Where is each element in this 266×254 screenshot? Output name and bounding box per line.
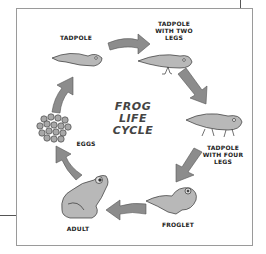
diagram-title: FROG LIFE CYCLE xyxy=(103,101,163,137)
adult-frog-illustration xyxy=(62,176,108,219)
label-line: ADULT xyxy=(62,225,94,232)
label-line: WITH FOUR xyxy=(200,151,246,158)
title-line-3: CYCLE xyxy=(103,125,163,137)
arrow-two-legs-to-four-legs xyxy=(178,68,207,104)
label-tadpole: TADPOLE xyxy=(56,34,96,41)
label-tadpole-four-legs: TADPOLE WITH FOUR LEGS xyxy=(200,144,246,165)
arrow-adult-to-eggs xyxy=(56,146,82,180)
froglet-illustration xyxy=(146,188,196,214)
arrow-eggs-to-tadpole xyxy=(52,77,73,113)
tadpole-four-legs-illustration xyxy=(186,114,242,137)
tadpole-illustration xyxy=(52,53,102,66)
label-adult: ADULT xyxy=(62,225,94,232)
label-line: LEGS xyxy=(152,34,196,41)
arrow-tadpole-to-two-legs xyxy=(108,34,150,54)
label-line: LEGS xyxy=(200,158,246,165)
label-line: TADPOLE xyxy=(200,144,246,151)
arrow-four-legs-to-froglet xyxy=(176,148,202,182)
label-tadpole-two-legs: TADPOLE WITH TWO LEGS xyxy=(152,20,196,41)
label-line: TADPOLE xyxy=(152,20,196,27)
label-line: EGGS xyxy=(74,140,98,147)
label-line: FROGLET xyxy=(158,221,198,228)
arrow-froglet-to-adult xyxy=(106,200,146,220)
label-froglet: FROGLET xyxy=(158,221,198,228)
label-line: TADPOLE xyxy=(56,34,96,41)
label-eggs: EGGS xyxy=(74,140,98,147)
label-line: WITH TWO xyxy=(152,27,196,34)
eggs-illustration xyxy=(37,114,71,142)
